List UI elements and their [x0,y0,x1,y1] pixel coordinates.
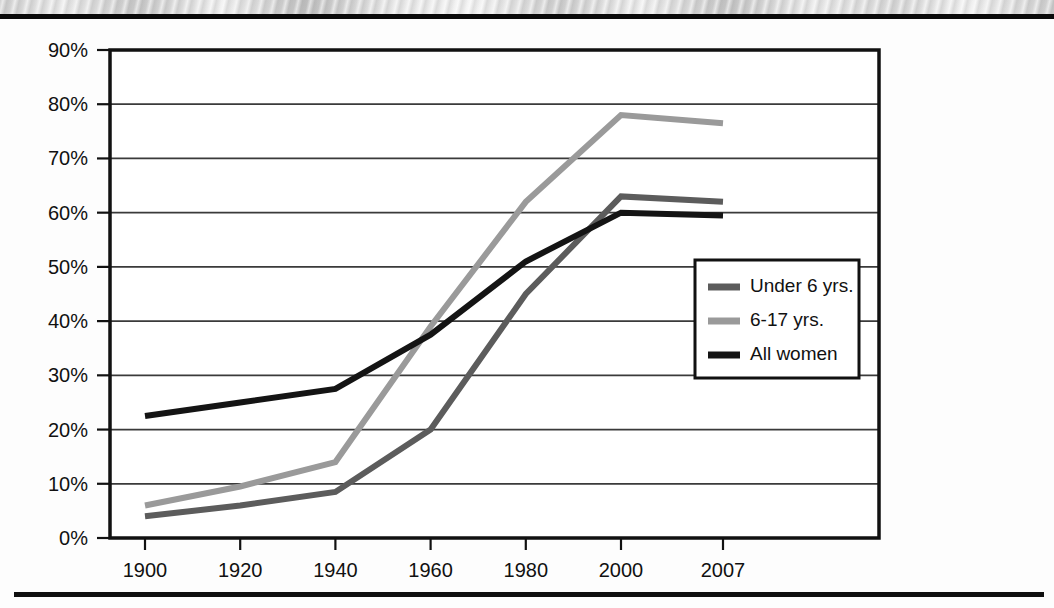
y-tick-group [97,50,110,538]
y-tick-label: 90% [48,39,88,61]
line-chart: 0%10%20%30%40%50%60%70%80%90% 1900192019… [0,19,1054,589]
x-tick-label: 1920 [218,559,263,581]
y-tick-label: 70% [48,147,88,169]
y-tick-label: 10% [48,473,88,495]
y-tick-label: 0% [59,527,88,549]
chart-canvas: 0%10%20%30%40%50%60%70%80%90% 1900192019… [0,19,1054,589]
y-tick-label: 80% [48,93,88,115]
legend-label: Under 6 yrs. [750,275,853,296]
x-tick-label: 1960 [408,559,453,581]
x-tick-label: 1980 [504,559,549,581]
y-axis-labels: 0%10%20%30%40%50%60%70%80%90% [48,39,88,549]
x-tick-label: 2007 [701,559,746,581]
page-root: 0%10%20%30%40%50%60%70%80%90% 1900192019… [0,0,1054,608]
y-tick-label: 50% [48,256,88,278]
y-tick-label: 30% [48,364,88,386]
legend-label: 6-17 yrs. [750,309,824,330]
chart-legend: Under 6 yrs.6-17 yrs.All women [695,260,859,378]
legend-label: All women [750,343,838,364]
y-tick-label: 60% [48,202,88,224]
x-tick-label: 1940 [313,559,358,581]
x-tick-label: 2000 [599,559,644,581]
x-axis-labels: 1900192019401960198020002007 [123,559,746,581]
bottom-horizontal-rule [14,592,1044,597]
x-tick-group [145,538,723,550]
y-tick-label: 40% [48,310,88,332]
y-tick-label: 20% [48,419,88,441]
x-tick-label: 1900 [123,559,168,581]
